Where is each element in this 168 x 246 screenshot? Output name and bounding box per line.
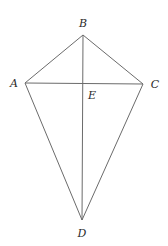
label-d: D	[77, 227, 87, 240]
label-b: B	[78, 17, 87, 30]
diagonal-ac	[25, 83, 143, 84]
kite-diagram: A B C D E	[0, 0, 168, 246]
label-a: A	[9, 77, 18, 90]
label-e: E	[87, 89, 96, 102]
segment-cd	[82, 84, 143, 220]
segment-ab	[25, 35, 83, 83]
segment-bc	[83, 35, 143, 84]
segment-da	[25, 83, 82, 220]
diagonal-bd	[82, 35, 83, 220]
label-c: C	[151, 78, 160, 91]
